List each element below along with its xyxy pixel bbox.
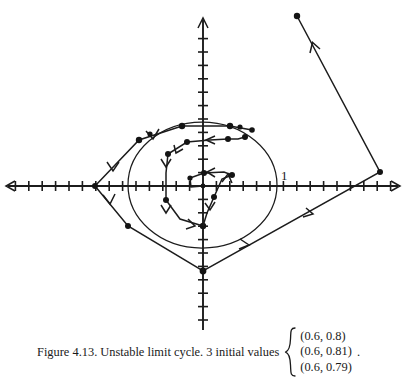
data-point — [225, 136, 231, 142]
data-point — [237, 124, 242, 129]
initial-values-list: (0.6, 0.8) (0.6, 0.81) (0.6, 0.79) — [300, 329, 352, 376]
data-point — [136, 137, 142, 143]
trajectory-inner-spiral — [187, 168, 235, 226]
data-point — [377, 169, 383, 175]
data-point — [179, 123, 185, 129]
data-point — [227, 123, 233, 129]
data-point — [294, 13, 300, 19]
data-point — [200, 268, 207, 275]
figure-caption: Figure 4.13. Unstable limit cycle. 3 ini… — [0, 327, 409, 377]
caption-trailing-period: . — [357, 345, 360, 360]
data-point — [201, 184, 206, 189]
data-point — [242, 134, 248, 140]
arrow-mid-left-upper — [161, 159, 171, 167]
initial-value-item: (0.6, 0.81) — [300, 344, 352, 360]
initial-value-item: (0.6, 0.79) — [300, 360, 352, 376]
figure-container: 1 — [0, 0, 409, 381]
data-point — [201, 170, 207, 176]
initial-value-item: (0.6, 0.8) — [300, 329, 352, 345]
data-point — [184, 139, 190, 145]
caption-prefix-text: Figure 4.13. Unstable limit cycle. 3 ini… — [37, 345, 279, 359]
arrow-mid-left-lower — [161, 205, 171, 213]
data-point — [165, 151, 171, 157]
data-point — [163, 197, 169, 203]
data-point — [125, 223, 131, 229]
data-point — [187, 175, 192, 180]
brace-group — [284, 327, 297, 377]
data-point — [211, 194, 217, 200]
data-point — [92, 183, 98, 189]
arrow-outer-bottom-right — [239, 239, 249, 249]
x-axis-tick-label-1: 1 — [281, 168, 288, 183]
data-point — [229, 172, 235, 178]
phase-plane-plot: 1 — [0, 0, 409, 381]
data-point — [147, 131, 152, 136]
trajectory-middle-spiral — [161, 134, 248, 229]
trajectory-outer-divergent — [92, 13, 383, 275]
left-curly-brace-icon — [284, 327, 297, 377]
data-point — [249, 127, 255, 133]
